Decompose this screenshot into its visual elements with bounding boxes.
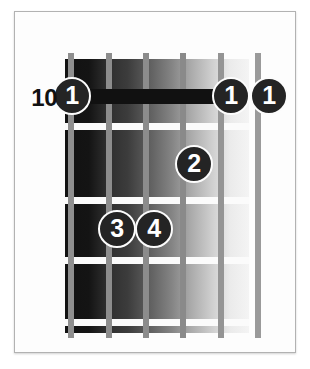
finger-dot-4-string-3[interactable]: 4	[135, 210, 173, 248]
chord-diagram: 1 1 1 2 3 4 10	[0, 0, 310, 369]
finger-dot-3-string-2[interactable]: 3	[98, 210, 136, 248]
finger-dot-2-string-4[interactable]: 2	[175, 145, 213, 183]
finger-dot-1-string-6[interactable]: 1	[250, 77, 288, 115]
barre-bar	[69, 89, 221, 104]
finger-dot-1-string-1[interactable]: 1	[53, 77, 91, 115]
finger-dot-1-string-5[interactable]: 1	[212, 77, 250, 115]
diagram-frame: 1 1 1 2 3 4 10	[14, 11, 296, 353]
fret-position-label: 10	[13, 84, 57, 112]
